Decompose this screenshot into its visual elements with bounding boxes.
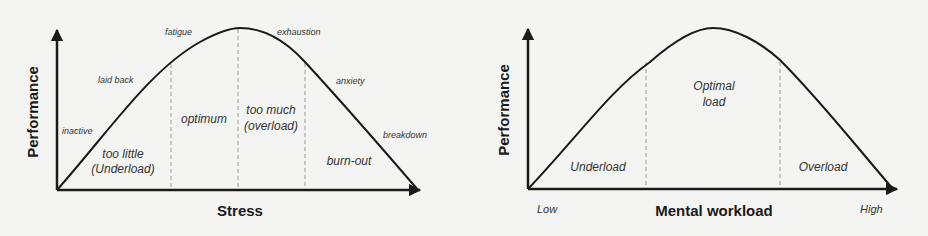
x-axis-title: Mental workload [655,202,773,219]
diagram-canvas: Performance Stress inactive laid back fa… [0,0,928,236]
x-axis-title: Stress [217,202,263,219]
zone-overload-line2: (overload) [244,119,298,133]
x-low-label: Low [537,203,558,215]
zone-optimum: optimum [181,112,227,126]
label-fatigue: fatigue [165,27,192,37]
label-exhaustion: exhaustion [277,27,321,37]
zone-optimal-line1: Optimal [693,79,735,93]
x-high-label: High [860,203,883,215]
right-diagram: Performance Mental workload Low High Und… [495,28,897,219]
label-breakdown: breakdown [383,130,427,140]
zone-underload-line2: (Underload) [91,162,154,176]
y-axis-title: Performance [24,66,41,158]
label-laid-back: laid back [98,75,134,85]
label-inactive: inactive [62,126,93,136]
zone-burnout: burn-out [327,154,372,168]
zone-overload-line1: too much [246,103,296,117]
zone-optimal-line2: load [703,95,726,109]
zone-overload: Overload [799,160,848,174]
left-diagram: Performance Stress inactive laid back fa… [24,27,427,219]
label-anxiety: anxiety [336,76,365,86]
y-axis-title: Performance [495,64,512,156]
zone-underload: Underload [570,160,626,174]
zone-underload-line1: too little [102,147,144,161]
